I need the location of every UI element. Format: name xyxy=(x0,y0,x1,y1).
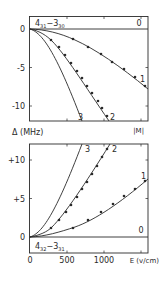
top-m0-label: 0 xyxy=(136,19,141,28)
bottom-panel: +10 +5 0 432−331 0 1 2 3 0 500 1000 E (v… xyxy=(8,144,159,265)
bottom-curve-3-label: 3 xyxy=(85,145,90,154)
top-ytick-5: -5 xyxy=(17,64,25,73)
top-curve-2 xyxy=(30,29,109,121)
m-axis-label: |M| xyxy=(133,127,144,135)
x-axis-label: E (v/cm) xyxy=(130,257,160,265)
xtick-1000: 1000 xyxy=(94,256,114,265)
bottom-curve-1-label: 1 xyxy=(141,172,146,181)
xtick-0: 0 xyxy=(27,256,32,265)
top-curve-3 xyxy=(30,29,82,121)
bottom-curve-2-label: 2 xyxy=(112,145,117,154)
delta-axis-label: Δ (MHz) xyxy=(12,128,43,137)
bottom-curve-2 xyxy=(30,144,110,237)
xtick-500: 500 xyxy=(59,256,74,265)
top-curve-2-label: 2 xyxy=(110,113,115,122)
top-curve-1 xyxy=(30,29,148,89)
top-curves xyxy=(30,29,148,121)
stark-shift-figure: 0 -5 -10 431−330 0 1 2 3 Δ (MHz) |M| xyxy=(0,0,166,281)
top-ticks xyxy=(30,17,149,122)
top-panel: 0 -5 -10 431−330 0 1 2 3 xyxy=(12,17,148,123)
top-transition-label: 431−330 xyxy=(35,19,65,29)
bottom-curve-1 xyxy=(30,179,148,237)
bottom-curves xyxy=(30,144,148,237)
bottom-ytick-5: +5 xyxy=(13,195,25,204)
bottom-ytick-10: +10 xyxy=(8,156,25,165)
top-ytick-0: 0 xyxy=(20,25,25,34)
bottom-m0-label: 0 xyxy=(138,226,143,235)
top-curve-1-label: 1 xyxy=(140,75,145,84)
top-frame xyxy=(30,17,149,122)
top-curve-3-label: 3 xyxy=(78,113,83,122)
bottom-ytick-0: 0 xyxy=(20,233,25,242)
bottom-transition-label: 432−331 xyxy=(35,242,65,252)
top-ytick-10: -10 xyxy=(12,102,25,111)
